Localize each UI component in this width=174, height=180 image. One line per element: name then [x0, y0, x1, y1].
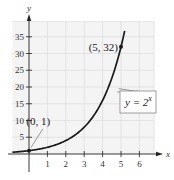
label-0-1: (0, 1) [26, 115, 50, 128]
grid-area [12, 22, 154, 154]
x-tick-label: 2 [64, 159, 69, 169]
x-tick-label: 3 [82, 159, 87, 169]
x-tick-label: 1 [45, 159, 50, 169]
label-5-32: (5, 32) [89, 41, 119, 54]
y-tick-label: 35 [15, 32, 25, 42]
equation-text: y = 2x [124, 94, 152, 108]
x-axis-arrow-icon [156, 152, 163, 156]
exponential-chart: xy 1234565101520253035 (0, 1)(5, 32) y =… [0, 0, 174, 180]
y-tick-label: 5 [20, 132, 25, 142]
y-tick-label: 15 [15, 99, 25, 109]
x-tick-label: 5 [119, 159, 124, 169]
point-0-1 [27, 149, 31, 153]
y-axis-label: y [26, 3, 31, 13]
point-5-32 [119, 45, 123, 49]
x-tick-label: 6 [137, 159, 142, 169]
y-tick-label: 10 [15, 116, 25, 126]
y-tick-label: 25 [15, 65, 25, 75]
grid-background [12, 22, 154, 154]
y-tick-label: 20 [15, 82, 25, 92]
x-axis-label: x [165, 149, 170, 159]
x-tick-label: 4 [100, 159, 105, 169]
y-axis-arrow-icon [27, 14, 31, 21]
equation-label-box: y = 2x [117, 89, 156, 113]
y-tick-label: 30 [15, 49, 25, 59]
